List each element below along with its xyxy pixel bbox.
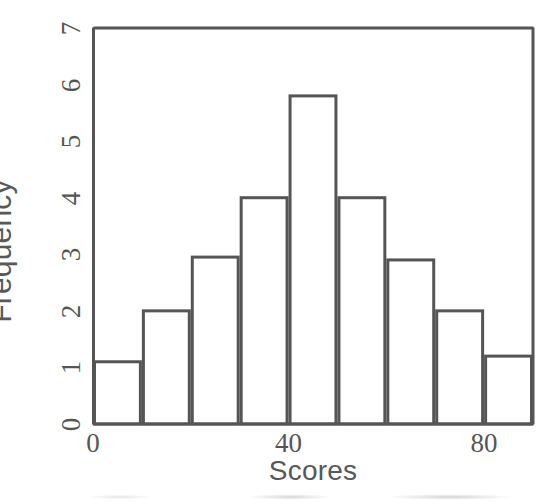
histogram-bar xyxy=(241,198,287,424)
histogram-bar xyxy=(95,362,141,424)
y-tick-label: 2 xyxy=(56,291,87,331)
y-tick-label: 3 xyxy=(56,235,87,275)
histogram-bar xyxy=(192,257,238,424)
scan-artifact xyxy=(250,492,540,502)
histogram-bar xyxy=(339,198,385,424)
y-tick-label: 1 xyxy=(56,348,87,388)
histogram-bar xyxy=(486,356,532,424)
scan-artifact-secondary xyxy=(60,493,180,502)
histogram-bar xyxy=(290,96,336,424)
histogram-bar xyxy=(143,311,189,424)
y-tick-label: 6 xyxy=(56,65,87,105)
histogram-bar xyxy=(437,311,483,424)
histogram-figure: Frequency 01234567 04080 Scores xyxy=(0,0,551,502)
histogram-bar xyxy=(388,260,434,424)
y-tick-label: 5 xyxy=(56,122,87,162)
y-tick-label: 7 xyxy=(56,9,87,49)
x-axis-title: Scores xyxy=(93,455,533,487)
bars-group xyxy=(95,96,532,424)
y-tick-label: 4 xyxy=(56,178,87,218)
